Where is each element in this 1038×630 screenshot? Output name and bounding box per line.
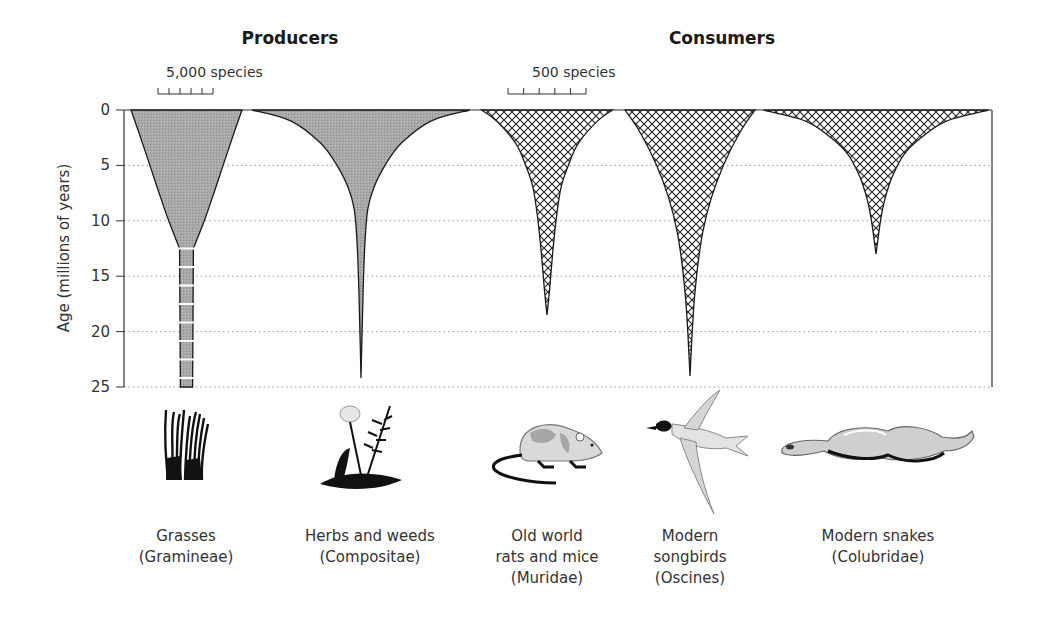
rat-icon (493, 425, 602, 483)
scale-label-producers: 5,000 species (166, 64, 263, 80)
y-tick-label: 10 (91, 212, 110, 230)
y-tick-label: 15 (91, 267, 110, 285)
y-axis-title: Age (millions of years) (55, 164, 73, 333)
grass-icon (165, 410, 208, 480)
spindle-old-world-rats-and-mice (482, 110, 613, 315)
taxon-label: (Compositae) (320, 548, 421, 566)
taxon-label: Modern snakes (822, 527, 935, 545)
y-tick-label: 25 (91, 378, 110, 396)
spindle-modern-songbirds (625, 110, 755, 376)
y-tick-label: 0 (100, 101, 110, 119)
dandelion-icon (320, 406, 402, 489)
spindle-herbs-and-weeds (252, 110, 470, 378)
taxon-label: Modern (662, 527, 718, 545)
taxon-label: (Gramineae) (139, 548, 234, 566)
group-title-consumers: Consumers (669, 28, 775, 48)
snake-icon (782, 427, 974, 461)
taxon-label: Old world (511, 527, 583, 545)
y-axis-ticks: 0510152025 (91, 101, 124, 396)
taxon-label: rats and mice (495, 548, 598, 566)
spindles (131, 110, 989, 387)
scale-bar-consumers (508, 88, 586, 94)
taxon-labels: Grasses(Gramineae)Herbs and weeds(Compos… (139, 527, 935, 587)
taxon-label: (Oscines) (655, 569, 725, 587)
taxon-label: (Muridae) (511, 569, 583, 587)
group-title-producers: Producers (242, 28, 339, 48)
y-tick-label: 20 (91, 323, 110, 341)
taxon-label: Herbs and weeds (305, 527, 435, 545)
taxon-label: (Colubridae) (832, 548, 925, 566)
spindle-modern-snakes (764, 110, 989, 254)
scale-bar-producers (158, 88, 213, 94)
taxon-label: songbirds (654, 548, 727, 566)
chart: Producers Consumers 5,000 species 500 sp… (0, 0, 1038, 630)
taxon-label: Grasses (156, 527, 216, 545)
y-tick-label: 5 (100, 156, 110, 174)
songbird-icon (646, 390, 748, 514)
scale-label-consumers: 500 species (532, 64, 615, 80)
